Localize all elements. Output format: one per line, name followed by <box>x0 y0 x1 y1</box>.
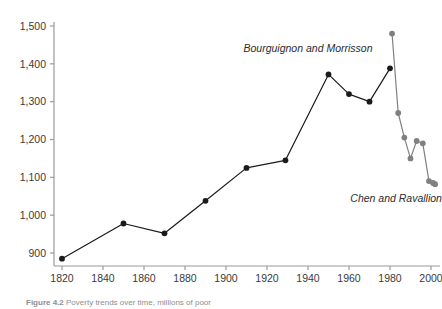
x-axis-tick-label: 1840 <box>91 272 115 284</box>
data-point-marker <box>121 221 127 227</box>
series-line <box>62 68 390 258</box>
x-axis-tick-label: 1980 <box>378 272 402 284</box>
y-axis-tick-label: 1,100 <box>20 171 46 183</box>
x-axis-tick-label: 1920 <box>255 272 279 284</box>
x-axis-tick-label: 1820 <box>50 272 74 284</box>
y-axis-tick-label: 900 <box>28 247 46 259</box>
data-point-marker <box>367 99 373 105</box>
y-axis-tick-label: 1,300 <box>20 95 46 107</box>
figure-caption-text: Poverty trends over time, millions of po… <box>66 298 211 307</box>
data-point-marker <box>420 140 426 146</box>
data-point-marker <box>244 165 250 171</box>
figure-caption-prefix: Figure 4.2 <box>26 298 64 307</box>
series-annotation-label: Bourguignon and Morrisson <box>244 42 373 54</box>
poverty-trends-chart: 9001,0001,1001,2001,3001,4001,5001820184… <box>0 0 442 309</box>
x-axis-tick-label: 1960 <box>337 272 361 284</box>
data-point-marker <box>162 230 168 236</box>
series-annotation-label: Chen and Ravallion <box>350 192 442 204</box>
data-point-marker <box>283 157 289 163</box>
y-axis-tick-label: 1,000 <box>20 209 46 221</box>
data-point-marker <box>401 135 407 141</box>
chart-canvas: 9001,0001,1001,2001,3001,4001,5001820184… <box>0 0 442 309</box>
data-point-marker <box>414 138 420 144</box>
series-bourguignon-morrisson <box>59 65 393 261</box>
y-axis-tick-label: 1,400 <box>20 58 46 70</box>
y-axis-tick-label: 1,500 <box>20 20 46 32</box>
x-axis-tick-label: 2000 <box>419 272 442 284</box>
x-axis-tick-label: 1900 <box>214 272 238 284</box>
data-point-marker <box>432 181 438 187</box>
series-line <box>392 34 435 185</box>
data-point-marker <box>395 110 401 116</box>
data-point-marker <box>387 65 393 71</box>
data-point-marker <box>389 31 395 37</box>
data-point-marker <box>59 256 65 262</box>
series-chen-ravallion <box>389 31 438 187</box>
data-point-marker <box>346 91 352 97</box>
x-axis-tick-label: 1860 <box>132 272 156 284</box>
x-axis-tick-label: 1880 <box>173 272 197 284</box>
data-point-marker <box>203 198 209 204</box>
x-axis-tick-label: 1940 <box>296 272 320 284</box>
y-axis-tick-label: 1,200 <box>20 133 46 145</box>
figure-caption: Figure 4.2 Poverty trends over time, mil… <box>26 297 211 309</box>
data-point-marker <box>408 156 414 162</box>
data-point-marker <box>326 72 332 78</box>
